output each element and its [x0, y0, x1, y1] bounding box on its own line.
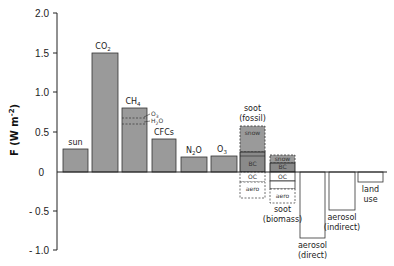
svg-text:OC: OC [248, 173, 257, 180]
y-axis-label: F (W m-2) [8, 104, 20, 156]
ytick-label: 1.5 [35, 48, 49, 59]
svg-text:soot: soot [274, 205, 291, 214]
forcing-chart: F (W m-2) 2.0 1.5 1.0 0.5 0 - 0.5 - 1.0 … [0, 0, 394, 266]
svg-text:aero: aero [276, 192, 290, 199]
svg-text:snow: snow [275, 155, 291, 162]
bar-co2 [92, 53, 118, 172]
ytick-label: 0 [38, 167, 44, 178]
ytick-label: 0.5 [35, 127, 49, 138]
bar-o3 [211, 156, 237, 172]
svg-text:BC: BC [248, 160, 256, 167]
svg-text:(indirect): (indirect) [324, 223, 360, 232]
svg-text:land: land [362, 185, 379, 194]
svg-text:use: use [363, 195, 377, 204]
bar-sun [63, 149, 88, 172]
svg-text:BC: BC [278, 163, 286, 170]
ytick-label: 2.0 [35, 8, 49, 19]
svg-text:CO2: CO2 [95, 42, 110, 52]
bar-aerosol-indirect [329, 172, 355, 210]
svg-text:(direct): (direct) [298, 251, 327, 260]
bar-n2o [181, 157, 207, 172]
svg-text:CFCs: CFCs [154, 128, 174, 137]
svg-text:OC: OC [278, 173, 287, 180]
bar-soot-fossil: snow BC OC aero [240, 126, 265, 198]
ytick-label: 1.0 [35, 87, 49, 98]
svg-text:aerosol: aerosol [327, 213, 356, 222]
bar-ch4 [122, 108, 147, 172]
ytick-label: - 0.5 [29, 206, 49, 217]
svg-text:soot: soot [244, 104, 261, 113]
svg-text:N2O: N2O [186, 146, 202, 156]
svg-text:(fossil): (fossil) [239, 114, 266, 123]
bar-cfcs [152, 139, 176, 172]
svg-text:snow: snow [245, 129, 261, 136]
bar-aerosol-direct [300, 172, 325, 238]
svg-text:aero: aero [246, 185, 260, 192]
positive-bars [63, 53, 237, 172]
ytick-label: - 1.0 [29, 245, 49, 256]
y-ticks: 2.0 1.5 1.0 0.5 0 - 0.5 - 1.0 [29, 8, 57, 256]
svg-text:aerosol: aerosol [298, 241, 327, 250]
svg-text:CH4: CH4 [125, 97, 141, 107]
svg-text:F (W m-2): F (W m-2) [8, 104, 20, 156]
bar-soot-biomass: snow BC OC aero [270, 155, 295, 203]
svg-text:(biomass): (biomass) [263, 215, 302, 224]
svg-text:sun: sun [68, 138, 82, 147]
svg-text:O3: O3 [217, 145, 227, 155]
bar-land-use [358, 172, 383, 182]
